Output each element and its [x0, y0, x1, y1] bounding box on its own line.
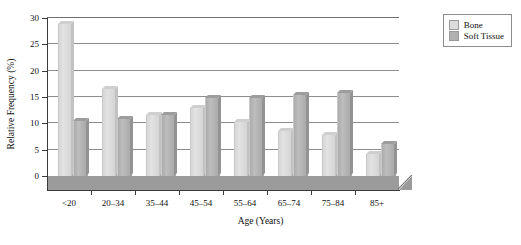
bar-bone: [58, 24, 71, 176]
bar-group: [278, 18, 306, 176]
y-axis-tick: [42, 176, 47, 177]
bar-group: [322, 18, 350, 176]
bar-bone: [366, 154, 379, 176]
bar-soft-tissue: [205, 98, 218, 176]
bar-chart: Relative Frequency (%) 051015202530 <202…: [0, 0, 521, 245]
bar-side-face: [306, 92, 309, 176]
legend-swatch-icon: [449, 31, 459, 41]
bar-bone: [102, 89, 115, 176]
bar-bone: [146, 115, 159, 176]
y-axis-tick-label: 25: [30, 40, 39, 49]
x-axis-tick-label: 20–34: [102, 198, 125, 208]
y-axis-tick: [42, 44, 47, 45]
x-axis-tick-label: <20: [62, 198, 76, 208]
bar-top-face: [205, 95, 221, 98]
bar-group: [102, 18, 130, 176]
bar-top-face: [249, 95, 265, 98]
bar-soft-tissue: [337, 93, 350, 176]
x-axis-tick-label: 85+: [370, 198, 384, 208]
y-axis-tick: [42, 18, 47, 19]
x-axis-tick-label: 45–54: [190, 198, 213, 208]
y-axis-tick-label: 0: [35, 172, 40, 181]
y-axis-tick: [42, 123, 47, 124]
x-axis-tick-label: 35–44: [146, 198, 169, 208]
bar-soft-tissue: [249, 98, 262, 176]
bar-side-face: [394, 141, 397, 176]
legend-label: Soft Tissue: [464, 31, 504, 41]
bar-side-face: [130, 116, 133, 176]
x-axis-tick-label: 55–64: [234, 198, 257, 208]
legend-label: Bone: [464, 20, 483, 30]
y-axis-tick-label: 20: [30, 66, 39, 75]
x-axis-tick: [355, 190, 356, 195]
x-axis-title: Age (Years): [0, 216, 521, 226]
y-axis-tick-label: 5: [35, 145, 40, 154]
x-axis-tick: [267, 190, 268, 195]
legend-item[interactable]: Bone: [449, 20, 504, 30]
bar-side-face: [350, 90, 353, 176]
legend-swatch-icon: [449, 20, 459, 30]
bar-bone: [278, 131, 291, 176]
bar-group: [366, 18, 394, 176]
bar-group: [190, 18, 218, 176]
y-axis-title-label: Relative Frequency (%): [6, 59, 16, 150]
y-axis-tick: [42, 97, 47, 98]
y-axis-tick-label: 10: [30, 119, 39, 128]
bar-side-face: [86, 118, 89, 176]
bar-top-face: [73, 118, 89, 121]
x-axis-tick: [179, 190, 180, 195]
bar-bone: [322, 135, 335, 176]
x-axis-tick: [311, 190, 312, 195]
y-axis-tick: [42, 150, 47, 151]
y-axis-tick: [42, 71, 47, 72]
bar-soft-tissue: [117, 119, 130, 176]
bar-group: [234, 18, 262, 176]
bar-soft-tissue: [73, 121, 86, 176]
bar-bone: [234, 122, 247, 176]
y-axis-tick-label: 30: [30, 14, 39, 23]
x-axis-tick-label: 65–74: [278, 198, 301, 208]
y-axis: 051015202530: [47, 18, 48, 190]
y-axis-title: Relative Frequency (%): [4, 18, 18, 190]
legend-item[interactable]: Soft Tissue: [449, 31, 504, 41]
x-axis-tick-label: 75–84: [322, 198, 345, 208]
chart-depth-edge: [398, 175, 413, 190]
x-axis-tick: [223, 190, 224, 195]
bar-group: [58, 18, 86, 176]
bar-side-face: [218, 95, 221, 176]
bar-bone: [190, 108, 203, 176]
bar-side-face: [262, 95, 265, 176]
bars-layer: [47, 18, 399, 190]
bar-side-face: [174, 112, 177, 176]
bar-soft-tissue: [381, 144, 394, 176]
bar-group: [146, 18, 174, 176]
y-axis-tick-label: 15: [30, 93, 39, 102]
x-axis-tick: [135, 190, 136, 195]
plot-area: [47, 18, 399, 190]
chart-legend: BoneSoft Tissue: [443, 14, 512, 47]
bar-soft-tissue: [161, 115, 174, 176]
bar-soft-tissue: [293, 95, 306, 176]
x-axis-tick: [91, 190, 92, 195]
bar-top-face: [278, 128, 294, 131]
